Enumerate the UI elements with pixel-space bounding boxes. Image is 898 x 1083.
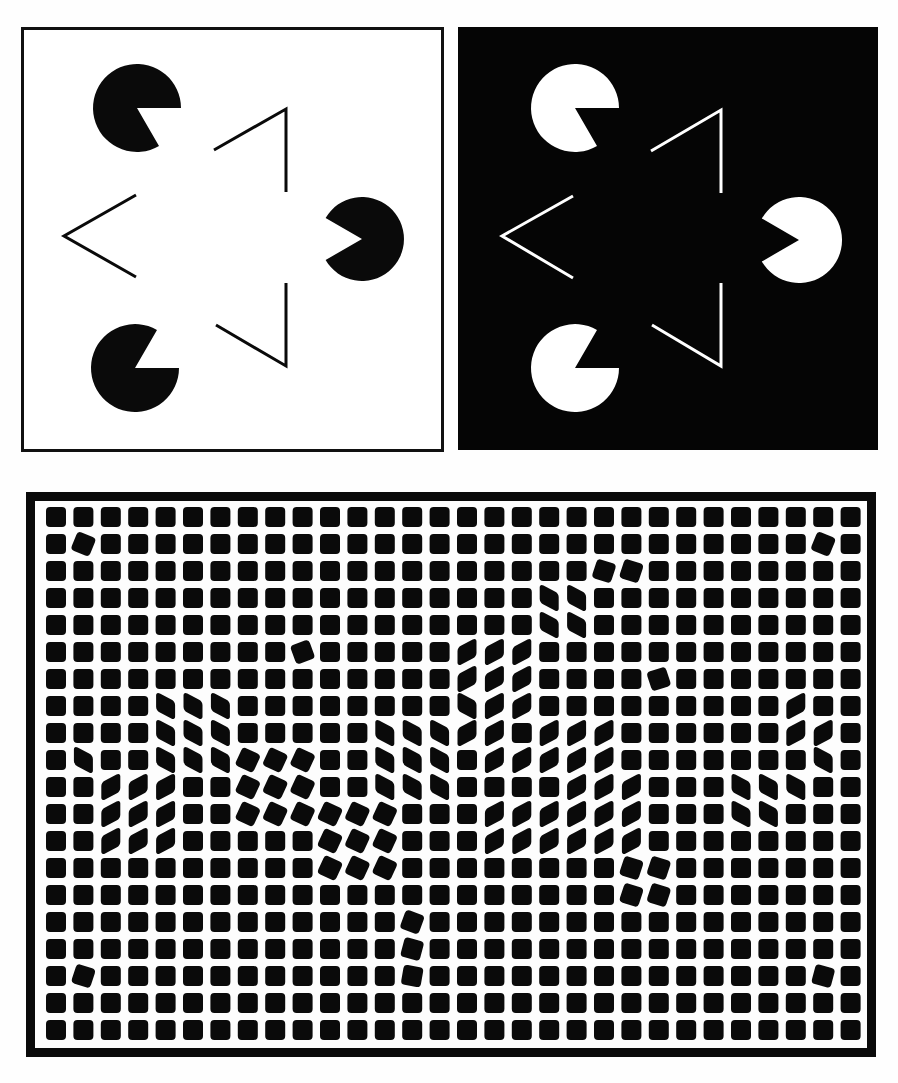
grid-tile <box>210 507 230 527</box>
grid-tile <box>402 831 422 851</box>
grid-tile <box>402 588 422 608</box>
grid-tile <box>210 885 230 905</box>
grid-tile <box>567 669 587 689</box>
grid-tile <box>841 723 861 743</box>
grid-tile <box>347 1020 367 1040</box>
grid-tile <box>101 615 121 635</box>
grid-tile <box>128 696 148 716</box>
grid-tile <box>293 588 313 608</box>
grid-tile <box>156 993 176 1013</box>
grid-tile <box>320 669 340 689</box>
grid-tile <box>457 750 477 770</box>
grid-tile <box>704 804 724 824</box>
grid-tile <box>290 639 316 665</box>
grid-tile <box>347 993 367 1013</box>
grid-tile <box>156 885 176 905</box>
grid-tile <box>649 588 669 608</box>
grid-tile <box>540 826 559 855</box>
grid-tile <box>649 966 669 986</box>
grid-tile <box>320 588 340 608</box>
grid-tile <box>347 534 367 554</box>
grid-tile <box>621 669 641 689</box>
grid-tile <box>567 993 587 1013</box>
grid-tile <box>813 642 833 662</box>
grid-tile <box>156 588 176 608</box>
grid-tile <box>704 912 724 932</box>
grid-tile <box>238 1020 258 1040</box>
grid-tile <box>540 745 559 774</box>
grid-tile <box>73 507 93 527</box>
grid-tile <box>265 696 285 716</box>
grid-tile <box>621 939 641 959</box>
grid-tile <box>430 831 450 851</box>
grid-tile <box>594 939 614 959</box>
grid-tile <box>704 993 724 1013</box>
grid-tile <box>293 534 313 554</box>
grid-tile <box>759 772 778 801</box>
grid-tile <box>484 615 504 635</box>
grid-tile <box>265 507 285 527</box>
grid-tile <box>238 966 258 986</box>
grid-tile <box>485 637 504 666</box>
grid-tile <box>841 804 861 824</box>
grid-tile <box>375 772 394 801</box>
grid-tile <box>841 885 861 905</box>
grid-tile <box>317 855 344 882</box>
grid-tile <box>183 912 203 932</box>
grid-tile <box>265 642 285 662</box>
grid-tile <box>841 615 861 635</box>
grid-tile <box>156 772 175 801</box>
grid-tile <box>73 777 93 797</box>
grid-tile <box>101 561 121 581</box>
grid-tile <box>567 1020 587 1040</box>
grid-tile <box>344 828 371 855</box>
grid-tile <box>484 966 504 986</box>
grid-tile <box>458 664 477 693</box>
grid-tile <box>567 939 587 959</box>
grid-tile <box>320 993 340 1013</box>
grid-tile <box>758 561 778 581</box>
grid-tile <box>512 858 532 878</box>
grid-tile <box>758 615 778 635</box>
grid-tile <box>156 745 175 774</box>
chevron-line <box>214 109 286 192</box>
grid-tile <box>211 718 230 747</box>
grid-tile <box>731 939 751 959</box>
grid-tile <box>649 993 669 1013</box>
grid-tile <box>235 774 262 801</box>
grid-tile <box>539 1020 559 1040</box>
grid-tile <box>512 615 532 635</box>
grid-tile <box>293 696 313 716</box>
grid-tile <box>372 801 399 828</box>
grid-tile <box>539 696 559 716</box>
grid-tile <box>786 642 806 662</box>
grid-tile <box>265 561 285 581</box>
grid-tile <box>375 912 395 932</box>
grid-tile <box>595 826 614 855</box>
grid-tile <box>594 669 614 689</box>
grid-tile <box>512 826 531 855</box>
grid-tile <box>731 993 751 1013</box>
grid-tile <box>786 750 806 770</box>
grid-tile <box>621 993 641 1013</box>
grid-tile <box>841 750 861 770</box>
grid-tile <box>101 696 121 716</box>
grid-tile <box>539 669 559 689</box>
grid-tile <box>375 507 395 527</box>
grid-tile <box>676 912 696 932</box>
grid-tile <box>293 993 313 1013</box>
grid-tile <box>457 1020 477 1040</box>
grid-tile <box>704 777 724 797</box>
grid-tile <box>293 966 313 986</box>
grid-tile <box>676 858 696 878</box>
grid-tile <box>265 615 285 635</box>
grid-tile <box>704 858 724 878</box>
grid-tile <box>731 831 751 851</box>
grid-tile <box>235 801 262 828</box>
grid-tile <box>238 507 258 527</box>
grid-tile <box>457 885 477 905</box>
grid-tile <box>101 939 121 959</box>
grid-tile <box>430 885 450 905</box>
grid-tile <box>594 966 614 986</box>
chevron-line <box>652 283 721 366</box>
